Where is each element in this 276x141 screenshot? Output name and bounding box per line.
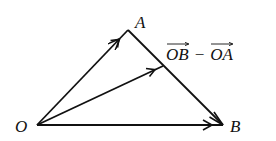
vector-ob [37, 120, 223, 130]
vector-oa [37, 30, 128, 125]
vector-ob-notation: OB [166, 46, 189, 63]
vector-diagram: O A B OB − OA [0, 0, 276, 141]
vector-arrow-icon [210, 42, 234, 46]
vector-om [37, 66, 163, 125]
vector-arrow-icon [166, 42, 190, 46]
point-label-o: O [15, 118, 27, 135]
point-label-b: B [230, 118, 240, 135]
vector-difference-expression: OB − OA [166, 46, 233, 63]
vector-oa-notation: OA [210, 46, 233, 63]
minus-operator: − [195, 45, 205, 64]
point-label-a: A [135, 14, 145, 31]
